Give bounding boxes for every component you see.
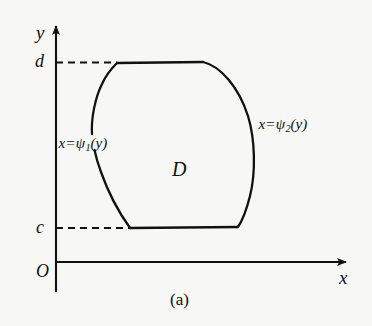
left-boundary-label: x=ψ1(y) bbox=[58, 136, 107, 153]
axes-group bbox=[56, 26, 346, 292]
bottom-edge-path bbox=[130, 227, 238, 228]
left-boundary-label-symbol: ψ bbox=[76, 135, 85, 151]
right-boundary-label-prefix: x= bbox=[258, 116, 276, 132]
right-boundary-label-symbol: ψ bbox=[276, 116, 285, 132]
origin-label: O bbox=[36, 262, 49, 280]
left-boundary-lower-path bbox=[95, 150, 131, 228]
tick-label-d: d bbox=[35, 52, 44, 70]
right-boundary-label: x=ψ2(y) bbox=[258, 117, 307, 134]
figure-caption: (a) bbox=[170, 291, 189, 308]
tick-label-c: c bbox=[36, 218, 44, 236]
left-boundary-upper-path bbox=[92, 63, 117, 134]
right-boundary-path bbox=[203, 62, 254, 227]
right-boundary-label-argument: (y) bbox=[291, 116, 308, 132]
figure-container: y x d c O D x=ψ1(y) x=ψ2(y) (a) bbox=[0, 0, 372, 326]
top-edge-path bbox=[117, 62, 203, 63]
x-axis-label: x bbox=[339, 268, 347, 287]
region-boundary-group bbox=[92, 62, 254, 228]
y-axis-label: y bbox=[36, 23, 44, 42]
left-boundary-label-prefix: x= bbox=[58, 135, 76, 151]
left-boundary-label-argument: (y) bbox=[91, 135, 108, 151]
region-label-D: D bbox=[172, 159, 186, 179]
